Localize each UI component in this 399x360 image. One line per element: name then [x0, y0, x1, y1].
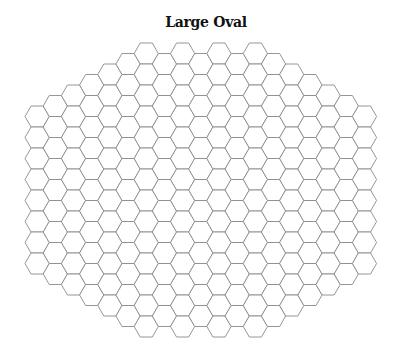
hex-grid [0, 0, 399, 360]
hex-cells [25, 43, 377, 337]
